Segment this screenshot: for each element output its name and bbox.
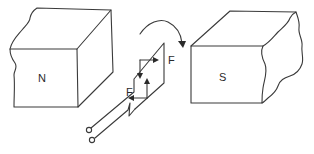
terminal-lower xyxy=(89,137,94,142)
arrow-down-icon xyxy=(137,73,143,79)
south-magnet-side-face xyxy=(262,12,303,103)
south-magnet: S xyxy=(191,11,303,103)
north-magnet: N xyxy=(10,8,113,107)
arrow-right-icon xyxy=(153,57,159,63)
force-label-lower: F xyxy=(126,86,133,98)
rotation-arrow-curve xyxy=(140,21,182,44)
south-magnet-front-face xyxy=(191,46,266,103)
arrow-up-icon xyxy=(144,78,150,84)
north-magnet-side-face xyxy=(78,10,113,107)
north-magnet-label: N xyxy=(38,72,46,84)
motor-principle-diagram: N S F F xyxy=(0,0,314,154)
force-label-upper: F xyxy=(168,54,175,66)
south-magnet-top-face xyxy=(191,11,296,46)
rotation-arrowhead-icon xyxy=(178,41,186,48)
terminal-upper xyxy=(86,127,91,132)
south-magnet-label: S xyxy=(219,71,226,83)
force-arrows: F F xyxy=(126,54,175,101)
north-magnet-top-face xyxy=(10,8,111,49)
